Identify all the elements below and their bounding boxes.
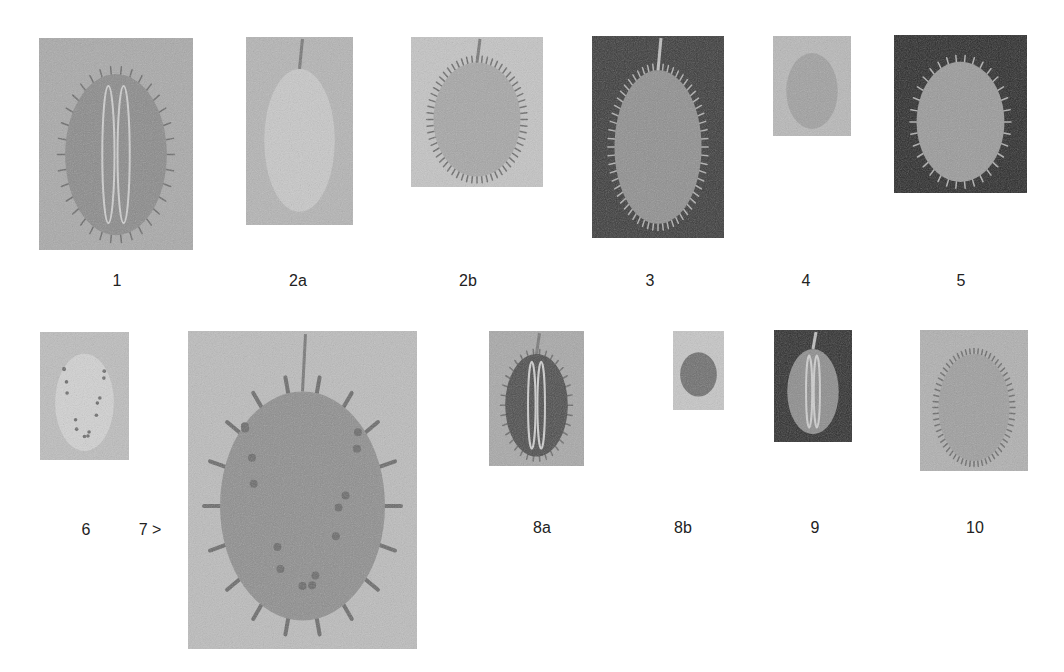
specimen-label: 3 [646, 273, 655, 289]
specimen-photo-2b [411, 37, 543, 187]
specimen-photo-10 [920, 330, 1028, 471]
specimen-photo-8b [673, 331, 724, 410]
specimen-photo-8a [489, 331, 584, 466]
specimen-photo-6 [40, 332, 129, 460]
specimen-photo-3 [592, 36, 724, 238]
specimen-label: 8b [674, 520, 692, 536]
specimen-photo-9 [774, 330, 852, 442]
specimen-label: 1 [113, 273, 122, 289]
specimen-label: 7 > [139, 522, 162, 538]
specimen-label: 6 [82, 522, 91, 538]
specimen-label: 2b [459, 273, 477, 289]
specimen-photo-4 [773, 36, 851, 136]
specimen-photo-5 [894, 35, 1027, 193]
specimen-label: 9 [811, 520, 820, 536]
specimen-label: 4 [802, 273, 811, 289]
specimen-label: 10 [966, 520, 984, 536]
specimen-photo-2a [246, 37, 353, 225]
specimen-label: 2a [289, 273, 307, 289]
specimen-photo-7 [188, 331, 417, 649]
specimen-photo-1 [39, 38, 193, 250]
specimen-label: 5 [957, 273, 966, 289]
specimen-label: 8a [533, 520, 551, 536]
